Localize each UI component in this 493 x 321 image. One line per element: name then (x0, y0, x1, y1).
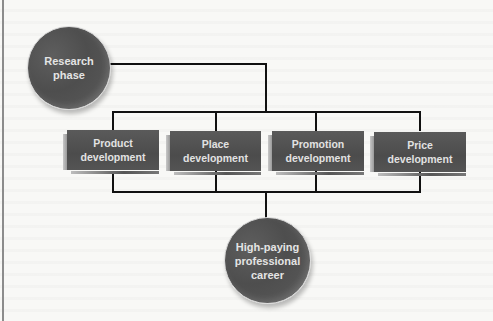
research-phase-label: Research phase (44, 54, 94, 82)
career-label: High-paying professional career (235, 240, 300, 282)
product-development-label: Product development (81, 136, 146, 164)
diagram-page: Research phase Product development Place… (0, 0, 493, 321)
product-development-node: Product development (67, 130, 159, 170)
promotion-development-label: Promotion development (286, 137, 351, 165)
promotion-development-node: Promotion development (272, 131, 364, 171)
place-development-node: Place development (170, 131, 261, 171)
price-development-label: Price development (388, 138, 453, 166)
place-development-label: Place development (183, 137, 248, 165)
research-phase-node: Research phase (27, 26, 111, 110)
career-node: High-paying professional career (224, 217, 311, 304)
price-development-node: Price development (374, 132, 466, 172)
